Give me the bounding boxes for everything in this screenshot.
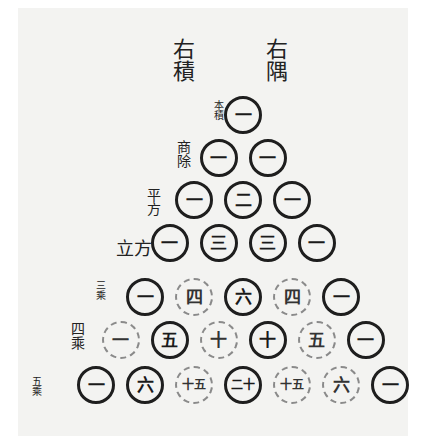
coefficient-circle: 一 xyxy=(371,366,409,404)
row-label-6: 四乘 xyxy=(70,322,84,350)
coefficient-circle: 四 xyxy=(175,278,213,316)
coefficient-circle: 一 xyxy=(224,96,262,134)
row-label-4: 立方 xyxy=(116,240,152,258)
coefficient-circle: 十五 xyxy=(273,366,311,404)
header-right-label: 右隅 xyxy=(263,38,285,82)
coefficient-circle: 三 xyxy=(249,224,287,262)
row-label-7: 五乘 xyxy=(30,376,40,396)
coefficient-circle: 一 xyxy=(347,321,385,359)
row-label-3: 平方 xyxy=(146,188,160,216)
coefficient-circle: 一 xyxy=(175,181,213,219)
coefficient-circle: 十 xyxy=(200,321,238,359)
coefficient-circle: 一 xyxy=(77,366,115,404)
coefficient-circle: 一 xyxy=(249,139,287,177)
coefficient-circle: 四 xyxy=(273,278,311,316)
coefficient-circle: 一 xyxy=(200,139,238,177)
coefficient-circle: 三 xyxy=(200,224,238,262)
coefficient-circle: 一 xyxy=(273,181,311,219)
coefficient-circle: 二十 xyxy=(224,366,262,404)
row-label-5: 三乘 xyxy=(94,280,104,300)
header-left-label: 右積 xyxy=(170,38,192,82)
coefficient-circle: 一 xyxy=(151,224,189,262)
coefficient-circle: 六 xyxy=(126,366,164,404)
coefficient-circle: 一 xyxy=(298,224,336,262)
coefficient-circle: 一 xyxy=(126,278,164,316)
coefficient-circle: 六 xyxy=(224,278,262,316)
row-label-2: 商除 xyxy=(176,140,190,168)
coefficient-circle: 一 xyxy=(322,278,360,316)
coefficient-circle: 五 xyxy=(151,321,189,359)
coefficient-circle: 五 xyxy=(298,321,336,359)
coefficient-circle: 二 xyxy=(224,181,262,219)
row-label-1: 本積 xyxy=(212,100,222,120)
coefficient-circle: 十 xyxy=(249,321,287,359)
coefficient-circle: 六 xyxy=(322,366,360,404)
coefficient-circle: 一 xyxy=(102,321,140,359)
coefficient-circle: 十五 xyxy=(175,366,213,404)
